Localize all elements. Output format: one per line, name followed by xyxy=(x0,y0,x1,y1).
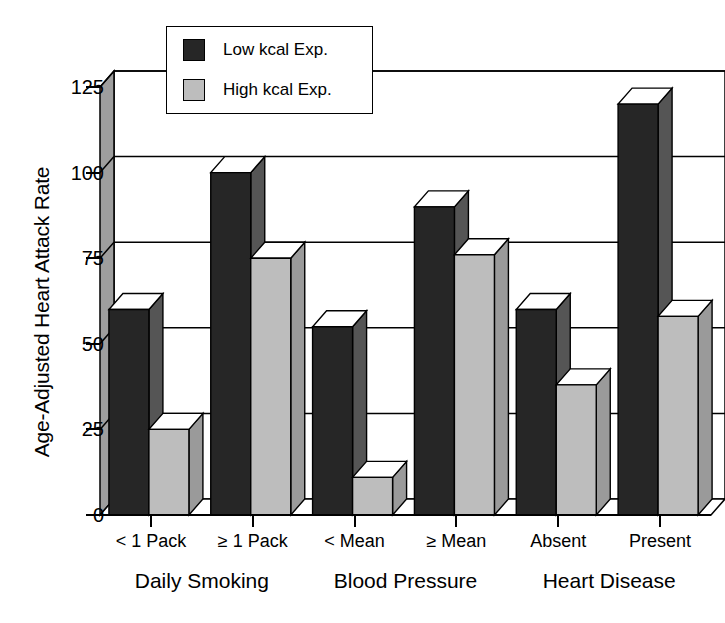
bar-low-kcal-exp--2-front xyxy=(313,327,353,515)
y-tick-dash-125 xyxy=(86,86,100,88)
bar-high-kcal-exp--2-front xyxy=(353,477,393,515)
bar-chart: Age-Adjusted Heart Attack Rate 025507510… xyxy=(0,0,725,623)
legend: Low kcal Exp. High kcal Exp. xyxy=(166,26,373,114)
bar-high-kcal-exp--0-front xyxy=(149,429,189,515)
legend-label-high-kcal: High kcal Exp. xyxy=(223,80,332,100)
x-tick-1 xyxy=(252,516,254,527)
bar-high-kcal-exp--5-side xyxy=(698,300,712,515)
x-tick-label-5: Present xyxy=(600,531,720,552)
x-axis-line xyxy=(100,514,711,516)
bar-low-kcal-exp--3-front xyxy=(414,207,454,515)
bar-high-kcal-exp--3-side xyxy=(494,239,508,515)
legend-swatch-low-kcal xyxy=(183,39,205,61)
y-tick-dash-100 xyxy=(86,172,100,174)
bar-high-kcal-exp--1-front xyxy=(251,258,291,515)
bar-high-kcal-exp--4-side xyxy=(596,369,610,515)
bar-low-kcal-exp--4-front xyxy=(516,310,556,515)
y-tick-dash-75 xyxy=(86,257,100,259)
legend-swatch-high-kcal xyxy=(183,79,205,101)
bar-high-kcal-exp--0-side xyxy=(189,413,203,515)
x-tick-4 xyxy=(557,516,559,527)
legend-entry-low-kcal: Low kcal Exp. xyxy=(183,37,328,63)
x-tick-2 xyxy=(354,516,356,527)
bar-high-kcal-exp--1-side xyxy=(291,242,305,515)
legend-label-low-kcal: Low kcal Exp. xyxy=(223,40,328,60)
group-label-2: Heart Disease xyxy=(479,569,725,593)
y-tick-dash-50 xyxy=(86,343,100,345)
y-tick-dash-0 xyxy=(86,514,100,516)
bar-high-kcal-exp--4-front xyxy=(556,385,596,515)
bar-low-kcal-exp--0-front xyxy=(109,310,149,515)
bar-low-kcal-exp--5-front xyxy=(618,104,658,515)
x-tick-0 xyxy=(150,516,152,527)
y-tick-dash-25 xyxy=(86,428,100,430)
bar-low-kcal-exp--1-front xyxy=(211,173,251,515)
x-tick-3 xyxy=(455,516,457,527)
bar-high-kcal-exp--5-front xyxy=(658,316,698,515)
bar-high-kcal-exp--3-front xyxy=(454,255,494,515)
x-tick-5 xyxy=(659,516,661,527)
legend-entry-high-kcal: High kcal Exp. xyxy=(183,77,332,103)
